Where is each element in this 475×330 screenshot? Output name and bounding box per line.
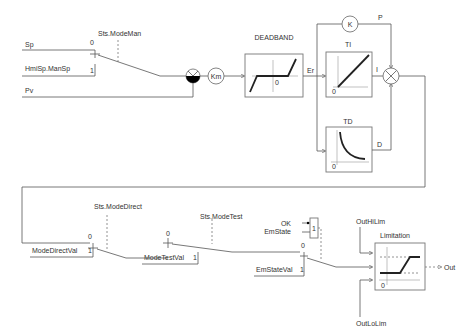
- ti-zero: 0: [332, 88, 336, 95]
- km-label: Km: [211, 73, 222, 80]
- mode-direct-pos1: 1: [88, 247, 92, 254]
- hmi-man-sp-label: HmiSp.ManSp: [25, 65, 70, 73]
- sp-label: Sp: [25, 41, 34, 49]
- mode-test-pos1: 1: [193, 254, 197, 261]
- mode-test-pos0: 0: [166, 230, 170, 237]
- ok-label: OK: [281, 220, 291, 227]
- d-label: D: [377, 141, 382, 148]
- mode-direct-val-label: ModeDirectVal: [32, 247, 78, 254]
- mode-man-pos1: 1: [90, 67, 94, 74]
- i-label: I: [376, 66, 378, 73]
- pid-diagram: Sp 0 HmiSp.ManSp 1 Pv Sts.ModeMan Km DEA…: [0, 0, 475, 330]
- em-state-switch: 0 EmStateVal 1: [254, 242, 372, 276]
- out-lo-lim-label: OutLoLim: [356, 320, 387, 327]
- pv-input: Pv: [22, 76, 193, 97]
- hmi-man-sp-input: HmiSp.ManSp 1: [22, 64, 95, 76]
- em-state-label: EmState: [264, 228, 291, 235]
- out-hi-lim-label: OutHiLim: [356, 218, 385, 225]
- mode-direct-label: Sts.ModeDirect: [94, 203, 142, 210]
- deadband-zero: 0: [275, 79, 279, 86]
- td-title: TD: [343, 118, 352, 125]
- limitation-title: Limitation: [380, 232, 410, 239]
- td-zero: 0: [332, 163, 336, 170]
- deadband-title: DEADBAND: [255, 34, 294, 41]
- km-gain: Km: [208, 68, 224, 84]
- out-label: Out: [444, 264, 455, 271]
- k-label: K: [348, 21, 353, 28]
- mode-direct-pos0: 0: [88, 233, 92, 240]
- pv-label: Pv: [25, 87, 34, 94]
- em-state-pos0: 0: [301, 242, 305, 249]
- mode-direct-switch: 0 ModeDirectVal 1 Sts.ModeDirect: [30, 203, 168, 258]
- limitation-block: OutHiLim Limitation 0 OutLoLim Out: [356, 218, 455, 327]
- ti-title: TI: [345, 41, 351, 48]
- limitation-zero: 0: [381, 282, 385, 289]
- p-label: P: [378, 14, 383, 21]
- mode-man-label: Sts.ModeMan: [98, 30, 141, 37]
- er-label: Er: [307, 67, 315, 74]
- em-state-logic: OK EmState 1: [264, 218, 321, 261]
- em-state-pos1: 1: [300, 266, 304, 273]
- mode-man-pos0: 0: [90, 39, 94, 46]
- mode-test-label: Sts.ModeTest: [200, 213, 242, 220]
- deadband-block: DEADBAND 0: [245, 34, 303, 97]
- em-logic-value: 1: [312, 225, 316, 232]
- em-state-val-label: EmStateVal: [256, 266, 293, 273]
- pid-sum-junction: [383, 68, 399, 84]
- sp-input: Sp 0: [22, 39, 95, 50]
- sum-junction: [186, 69, 200, 83]
- mode-man-switch: Sts.ModeMan: [90, 30, 186, 76]
- mode-test-val-label: ModeTestVal: [144, 254, 184, 261]
- integral-block: TI 0 I: [317, 41, 384, 97]
- mode-test-switch: 0 ModeTestVal 1 Sts.ModeTest: [142, 213, 300, 264]
